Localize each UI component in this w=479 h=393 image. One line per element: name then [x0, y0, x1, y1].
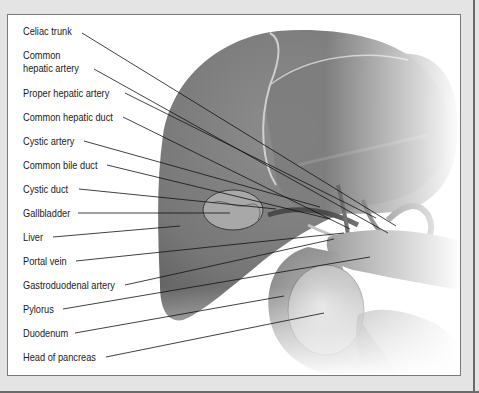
- label-gallbladder: Gallbladder: [23, 207, 70, 219]
- label-proper-hepatic-artery: Proper hepatic artery: [23, 87, 109, 99]
- label-portal-vein: Portal vein: [23, 255, 67, 267]
- label-head-of-pancreas: Head of pancreas: [23, 351, 96, 363]
- label-celiac-trunk: Celiac trunk: [23, 25, 72, 37]
- label-liver: Liver: [23, 231, 43, 243]
- label-pylorus: Pylorus: [23, 303, 54, 315]
- label-common-hepatic-duct: Common hepatic duct: [23, 111, 113, 123]
- label-duodenum: Duodenum: [23, 327, 68, 339]
- label-cystic-artery: Cystic artery: [23, 135, 74, 147]
- label-cystic-duct: Cystic duct: [23, 183, 68, 195]
- figure-panel: Celiac trunk Common hepatic artery Prope…: [7, 14, 461, 376]
- right-border-rule: [473, 0, 475, 393]
- label-common-bile-duct: Common bile duct: [23, 159, 97, 171]
- label-gastroduodenal-artery: Gastroduodenal artery: [23, 279, 115, 291]
- label-common-hepatic-artery: Common hepatic artery: [23, 49, 79, 75]
